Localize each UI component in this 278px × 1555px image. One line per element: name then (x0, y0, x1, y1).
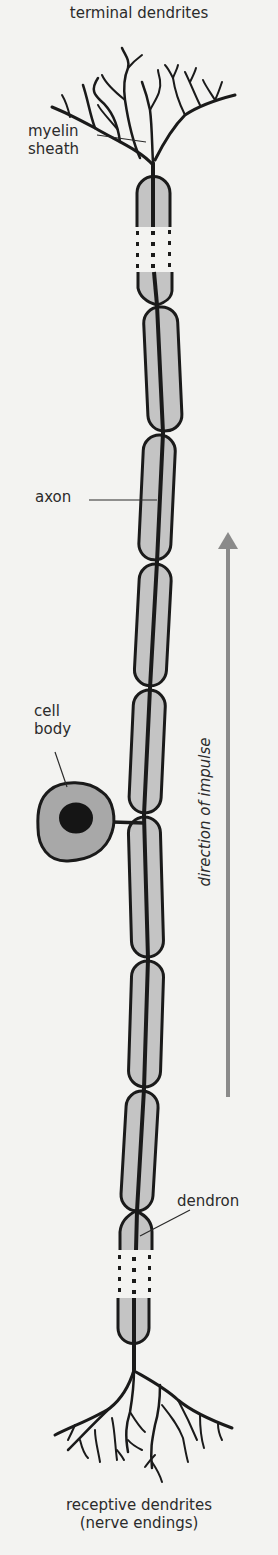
leader-lines (55, 135, 190, 1236)
axon-terminal-segment (136, 177, 172, 306)
receptive-label-line1: receptive dendrites (0, 1496, 278, 1514)
myelin-label-line1: myelin (28, 122, 79, 140)
impulse-direction-arrow (218, 532, 238, 1097)
myelin-sheath-label: myelin sheath (28, 122, 79, 158)
neuron-diagram (0, 0, 278, 1555)
receptive-dendrites-label: receptive dendrites (nerve endings) (0, 1496, 278, 1532)
dendron-label: dendron (177, 1192, 239, 1210)
direction-of-impulse-label: direction of impulse (196, 737, 214, 886)
cell-label-line1: cell (34, 702, 71, 720)
receptive-label-line2: (nerve endings) (0, 1514, 278, 1532)
terminal-dendrites-label: terminal dendrites (0, 4, 278, 22)
terminal-dendrites-icon (52, 48, 235, 177)
receptive-dendrites-icon (55, 1345, 232, 1482)
cell-label-line2: body (34, 720, 71, 738)
myelin-sheath-segments (120, 306, 182, 1211)
axon-label: axon (35, 488, 71, 506)
cell-body-label: cell body (34, 702, 71, 738)
myelin-label-line2: sheath (28, 140, 79, 158)
